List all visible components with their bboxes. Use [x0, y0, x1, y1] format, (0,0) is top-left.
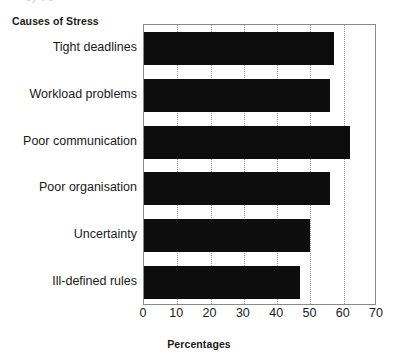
bar-series	[144, 25, 375, 304]
category-axis-labels: Tight deadlinesWorkload problemsPoor com…	[0, 24, 137, 305]
bar	[144, 79, 330, 112]
category-label: Tight deadlines	[53, 31, 137, 64]
category-label: Uncertainty	[74, 218, 137, 251]
x-axis-label: Percentages	[0, 338, 398, 350]
x-tick-label-70: 70	[356, 306, 396, 320]
bar	[144, 32, 334, 65]
category-label: Workload problems	[30, 78, 137, 111]
scan-artifact-text: sy t e	[26, 0, 54, 3]
plot-area	[143, 24, 376, 305]
bar	[144, 172, 330, 205]
bar	[144, 126, 350, 159]
bar	[144, 219, 310, 252]
category-label: Ill-defined rules	[52, 265, 137, 298]
x-axis-ticks: 010203040506070	[143, 306, 376, 326]
scan-artifact-sliver: sy t e	[0, 0, 398, 11]
category-label: Poor organisation	[39, 171, 137, 204]
stress-bar-chart: sy t e Causes of Stress Tight deadlinesW…	[0, 0, 398, 364]
bar	[144, 266, 300, 299]
category-label: Poor communication	[23, 125, 137, 158]
